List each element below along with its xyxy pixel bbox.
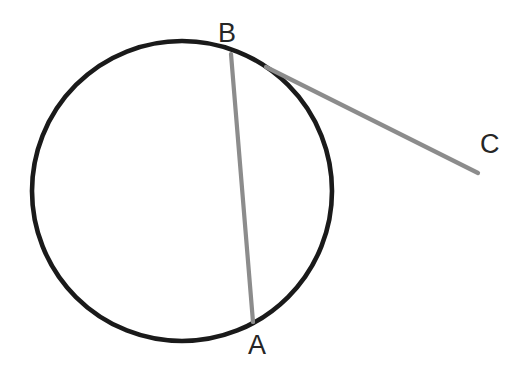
point-label-a: A xyxy=(248,332,266,359)
circle-outline xyxy=(32,41,332,341)
point-label-c: C xyxy=(480,131,500,158)
point-label-b: B xyxy=(218,20,236,47)
geometry-figure: B A C xyxy=(0,0,524,368)
geometry-canvas xyxy=(0,0,524,368)
chord-ab-line xyxy=(231,54,253,322)
tangent-bc-line xyxy=(266,67,478,173)
